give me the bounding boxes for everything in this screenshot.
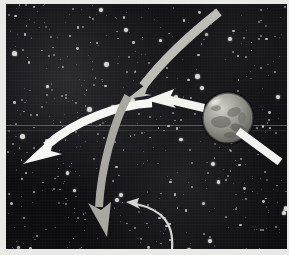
- arrow-curved-descending: [127, 12, 219, 99]
- photographic-plate: [6, 4, 287, 249]
- thin-pointer-arrow: [126, 198, 172, 249]
- figure-root: [0, 0, 289, 255]
- arrow-pointing-left: [145, 89, 204, 108]
- arrow-band-from-planet-lower-right: [238, 131, 280, 162]
- annotation-arrows-layer: [6, 4, 287, 249]
- arrow-curved-to-left-edge: [23, 103, 152, 164]
